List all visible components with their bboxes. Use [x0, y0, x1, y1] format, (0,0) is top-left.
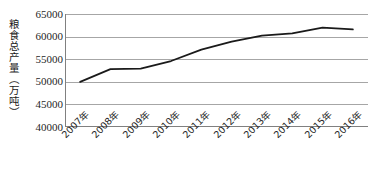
- y-tick-label: 65000: [19, 9, 63, 20]
- y-tick-label: 40000: [19, 122, 63, 133]
- y-tick-label: 45000: [19, 99, 63, 110]
- y-axis-title: 粮食总产量（万吨）: [2, 8, 18, 128]
- y-tick-label: 55000: [19, 54, 63, 65]
- y-tick-label: 60000: [19, 31, 63, 42]
- y-axis-tick-labels: 400004500050000550006000065000: [18, 0, 63, 181]
- y-tick-label: 50000: [19, 76, 63, 87]
- data-series-line: [80, 28, 353, 82]
- x-axis-tick-labels: 2007年2008年2009年2010年2011年2012年2013年2014年…: [65, 127, 368, 181]
- line-chart: 粮食总产量（万吨） 400004500050000550006000065000…: [0, 0, 375, 181]
